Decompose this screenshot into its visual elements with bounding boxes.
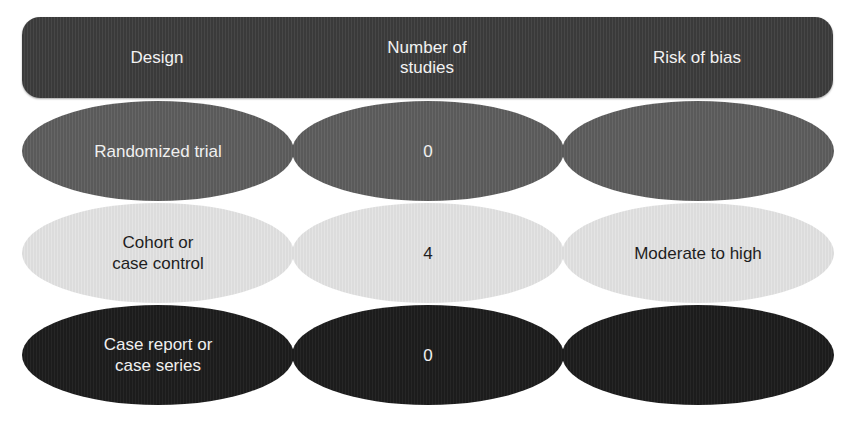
cell-studies: 0 <box>292 305 564 405</box>
design-line1: Case report or <box>104 335 213 354</box>
studies-count: 0 <box>423 141 432 162</box>
row-randomized-trial: Randomized trial 0 <box>0 101 863 201</box>
studies-count: 0 <box>423 345 432 366</box>
header-number-of-studies: Number of studies <box>292 17 562 98</box>
cell-design: Case report or case series <box>22 305 294 405</box>
risk-label: Moderate to high <box>634 243 762 264</box>
design-line2: case series <box>115 356 201 375</box>
cell-risk: Moderate to high <box>562 203 834 303</box>
design-label: Randomized trial <box>94 141 222 162</box>
cell-studies: 0 <box>292 101 564 201</box>
row-cohort-case-control: Cohort or case control 4 Moderate to hig… <box>0 203 863 303</box>
cell-design: Randomized trial <box>22 101 294 201</box>
table-header: Design Number of studies Risk of bias <box>22 17 833 98</box>
design-label: Cohort or case control <box>112 232 204 274</box>
cell-risk <box>562 101 834 201</box>
cell-studies: 4 <box>292 203 564 303</box>
row-case-report-series: Case report or case series 0 <box>0 305 863 405</box>
design-label: Case report or case series <box>104 334 213 376</box>
studies-count: 4 <box>423 243 432 264</box>
header-risk-label: Risk of bias <box>653 48 741 68</box>
design-line1: Cohort or <box>123 233 194 252</box>
header-studies-label: Number of studies <box>387 38 466 78</box>
cell-risk <box>562 305 834 405</box>
header-design: Design <box>22 17 292 98</box>
header-design-label: Design <box>131 48 184 68</box>
cell-design: Cohort or case control <box>22 203 294 303</box>
design-line2: case control <box>112 254 204 273</box>
header-studies-line1: Number of <box>387 38 466 57</box>
header-studies-line2: studies <box>400 58 454 77</box>
header-risk-of-bias: Risk of bias <box>562 17 832 98</box>
